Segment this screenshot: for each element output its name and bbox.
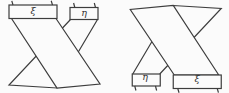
eta-label-right: η bbox=[142, 71, 148, 82]
xi-label-right: ξ bbox=[195, 73, 201, 84]
xi-label-left: ξ bbox=[30, 5, 36, 16]
eta-label-left: η bbox=[81, 7, 87, 18]
band-crossing-figure: ξ η η ξ bbox=[0, 0, 229, 93]
scanned-diagram-page: ξ η η ξ bbox=[0, 0, 229, 93]
